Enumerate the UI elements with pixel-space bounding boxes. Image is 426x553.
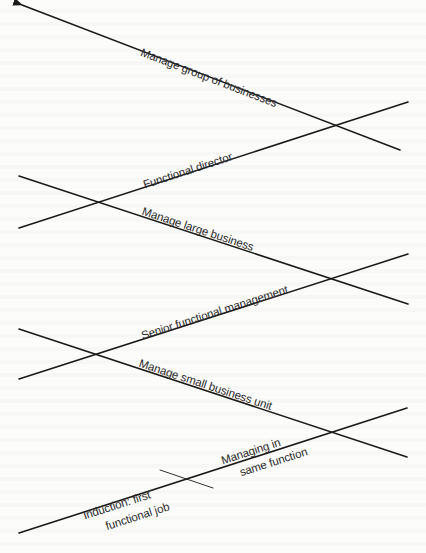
career-path-diagram: Manage group of businesses Functional di…	[0, 0, 426, 553]
line-induction-to-managing	[19, 408, 407, 533]
